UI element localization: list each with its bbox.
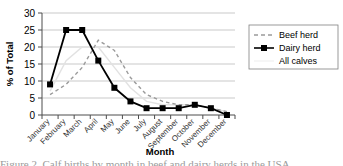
legend-label-beef-herd: Beef herd: [279, 30, 318, 40]
data-point-marker: [47, 81, 53, 87]
data-point-marker: [192, 102, 198, 108]
y-tick-label: 25: [24, 25, 36, 36]
legend-marker-dairy-herd: [261, 45, 267, 51]
figure-caption: Figure 2. Calf births by month in beef a…: [0, 159, 343, 166]
legend-label-all-calves: All calves: [279, 56, 318, 66]
x-axis-tick-labels: JanuaryFebruaryMarchAprilMayJuneJulyAugu…: [25, 117, 229, 152]
x-axis-title: Month: [146, 146, 175, 157]
data-point-marker: [111, 85, 117, 91]
x-tick-label: April: [82, 117, 100, 135]
y-tick-label: 5: [29, 93, 35, 104]
x-tick-label: June: [113, 117, 132, 136]
y-tick-label: 20: [24, 42, 36, 53]
y-tick-label: 30: [24, 8, 36, 19]
chart-legend: Beef herd Dairy herd All calves: [249, 25, 338, 69]
y-axis-tickmarks: [38, 13, 42, 115]
y-tick-label: 0: [29, 110, 35, 121]
y-tick-label: 15: [24, 59, 36, 70]
data-point-marker: [208, 105, 214, 111]
data-point-marker: [95, 58, 101, 64]
figure-container: 30 25 20 15 10 5 0 % of Total JanuaryFeb…: [0, 0, 343, 166]
line-chart: 30 25 20 15 10 5 0 % of Total JanuaryFeb…: [0, 0, 343, 166]
x-tick-label: March: [62, 117, 84, 139]
data-point-marker: [144, 105, 150, 111]
legend-label-dairy-herd: Dairy herd: [279, 43, 321, 53]
y-tick-label: 10: [24, 76, 36, 87]
y-axis-title: % of Total: [4, 42, 15, 87]
data-point-marker: [127, 98, 133, 104]
data-point-marker: [79, 27, 85, 33]
data-point-marker: [160, 105, 166, 111]
y-axis-tick-labels: 30 25 20 15 10 5 0: [24, 8, 36, 121]
x-tick-label: May: [99, 117, 116, 134]
data-point-marker: [63, 27, 69, 33]
data-point-marker: [176, 105, 182, 111]
data-point-marker: [224, 112, 230, 118]
